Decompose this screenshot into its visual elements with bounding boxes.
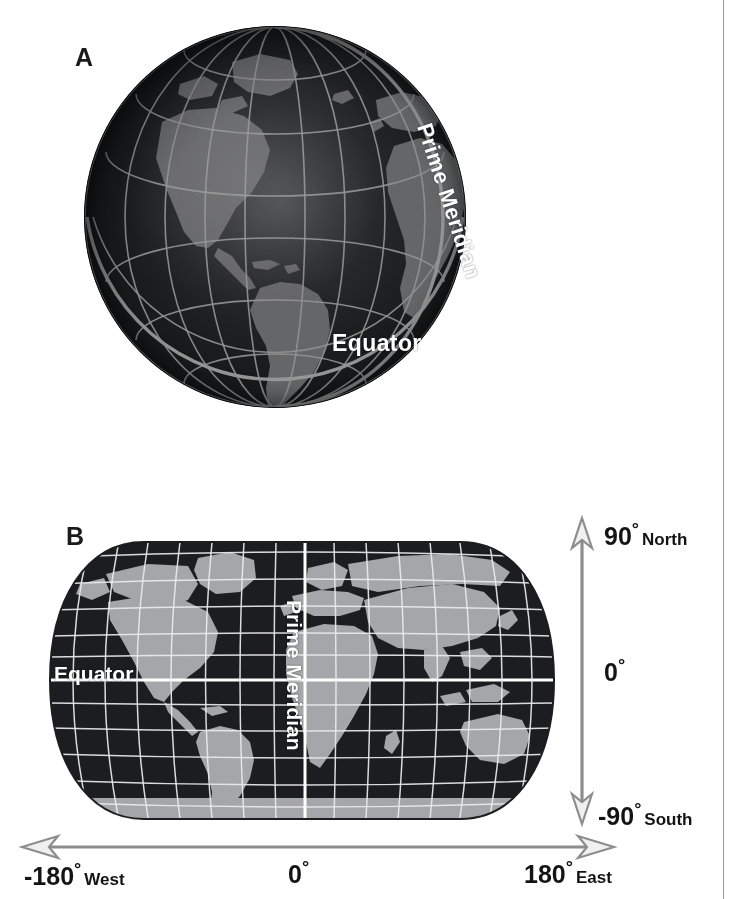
map-prime-meridian-label: Prime Meridian [282,600,306,751]
degree-symbol-icon: ° [566,857,573,877]
longitude-tick-east: 180°East [524,858,612,887]
latitude-zero-value: 0 [604,658,618,686]
longitude-west-value: -180 [24,862,74,890]
latitude-south-word: South [644,810,692,829]
latitude-south-value: -90 [598,802,634,830]
degree-symbol-icon: ° [618,655,625,675]
latitude-tick-zero: 0° [604,656,625,685]
longitude-tick-zero: 0° [288,858,309,887]
map-equator-label: Equator [54,662,133,686]
degree-symbol-icon: ° [302,857,309,877]
scan-line-artifact [723,0,724,899]
latitude-tick-south: -90°South [598,800,693,829]
longitude-west-word: West [84,870,124,889]
longitude-tick-west: -180°West [24,860,125,889]
longitude-zero-value: 0 [288,860,302,888]
latitude-north-word: North [642,530,687,549]
longitude-east-word: East [576,868,612,887]
latitude-north-value: 90 [604,522,632,550]
latitude-tick-north: 90°North [604,520,687,549]
globe-equator-label: Equator [332,330,422,357]
figure-root: A [0,0,735,899]
longitude-east-value: 180 [524,860,566,888]
degree-symbol-icon: ° [74,859,81,879]
degree-symbol-icon: ° [634,799,641,819]
scan-artifact-text [120,0,640,2]
latitude-axis-arrow [562,514,602,828]
world-map-panel: Equator Prime Meridian [48,540,556,821]
degree-symbol-icon: ° [632,519,639,539]
globe-panel: Equator Prime Meridian [84,26,466,408]
